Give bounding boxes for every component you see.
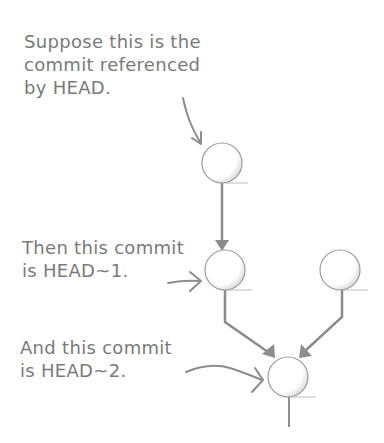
pointer-arrow-head-2 [186,366,262,380]
pointer-arrow-head [183,98,200,142]
edge-head-1-to-head-2 [225,290,268,352]
commit-graph [0,0,384,443]
commit-node-head-1 [205,250,252,290]
commit-node-head [202,143,248,183]
commit-node-side [320,250,368,290]
edge-head-1-to-head-2-arrowhead [262,344,275,358]
edge-side-to-head-2 [306,290,342,350]
edge-head-to-head-1-arrowhead [215,240,229,251]
commit-node-head-2 [268,357,316,397]
pointer-arrow-head-1 [168,281,200,283]
